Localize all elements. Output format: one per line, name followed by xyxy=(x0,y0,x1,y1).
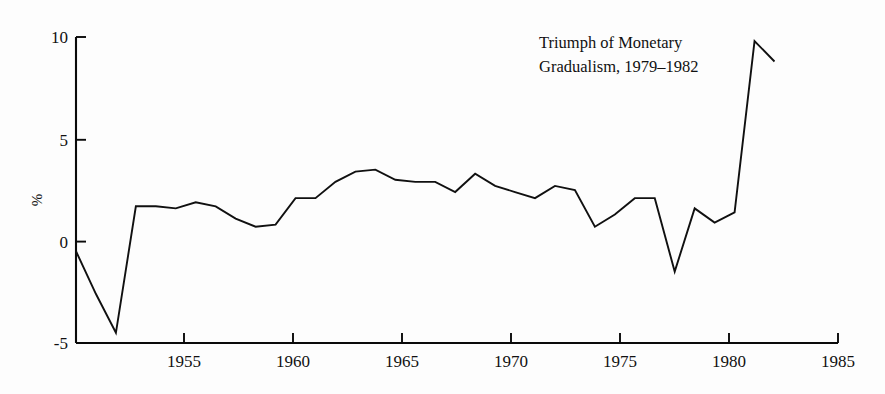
x-tick-label-1955: 1955 xyxy=(167,352,201,371)
annotation-line-2: Gradualism, 1979–1982 xyxy=(539,57,698,76)
y-axis-title: % xyxy=(29,194,45,207)
y-tick-label-0: 0 xyxy=(60,233,69,252)
x-tick-label-1965: 1965 xyxy=(385,352,419,371)
x-tick-label-1960: 1960 xyxy=(276,352,310,371)
chart-container: 10 5 0 -5 % 1955 1960 1965 1970 1975 198… xyxy=(0,0,885,394)
inflation-line-chart: 10 5 0 -5 % 1955 1960 1965 1970 1975 198… xyxy=(0,0,885,394)
y-tick-label-10: 10 xyxy=(51,28,68,47)
x-tick-label-1980: 1980 xyxy=(712,352,746,371)
x-tick-label-1970: 1970 xyxy=(494,352,528,371)
inflation-data-line xyxy=(76,41,775,333)
x-tick-label-1985: 1985 xyxy=(821,352,855,371)
y-tick-label-5: 5 xyxy=(60,131,69,150)
x-tick-label-1975: 1975 xyxy=(603,352,637,371)
y-tick-label-neg5: -5 xyxy=(54,334,68,353)
annotation-line-1: Triumph of Monetary xyxy=(539,33,683,52)
